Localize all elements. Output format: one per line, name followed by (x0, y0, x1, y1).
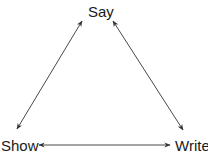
edge-say-show (17, 21, 82, 129)
node-say-label: Say (88, 4, 114, 19)
arrows-layer (0, 0, 208, 156)
say-show-write-diagram: Say Show Write (0, 0, 208, 156)
node-show-label: Show (1, 138, 39, 153)
edge-say-write (113, 21, 183, 130)
node-write-label: Write (175, 138, 208, 153)
